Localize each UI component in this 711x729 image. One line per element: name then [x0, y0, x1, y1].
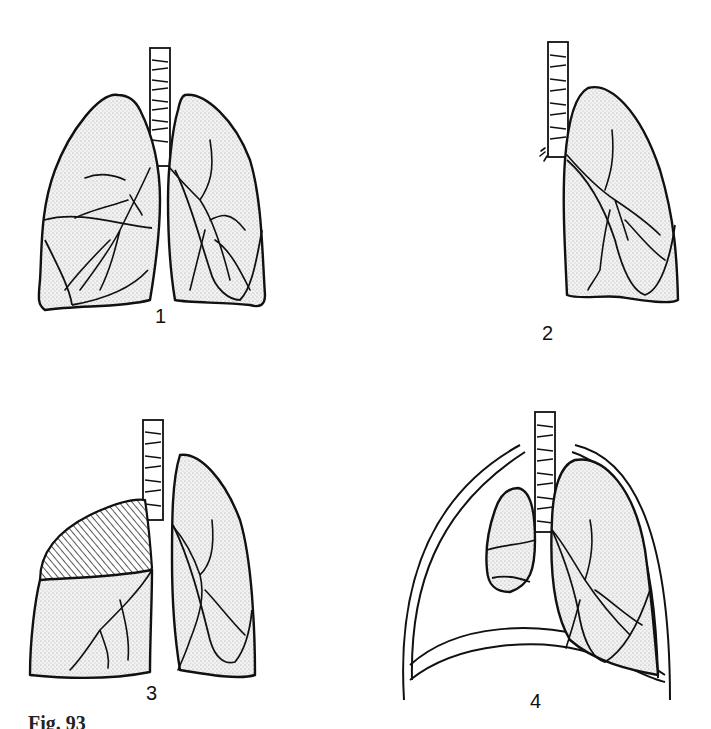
figure-caption: Fig. 93 [28, 712, 86, 729]
panel-label: 2 [542, 322, 553, 345]
lung-illustration-2 [520, 0, 711, 360]
panel-2-lateral-lung: 2 [520, 0, 711, 360]
lungs-illustration-3 [0, 400, 350, 700]
panel-label: 3 [146, 682, 157, 705]
chest-illustration-4 [380, 400, 711, 720]
panel-label: 1 [155, 305, 166, 328]
panel-1-normal-lungs: 1 [0, 0, 350, 340]
panel-3-collapsed-upper-lobe: 3 [0, 400, 350, 700]
panel-label: 4 [530, 690, 541, 713]
lungs-illustration-1 [0, 0, 350, 340]
collapsed-lobe-hatched [40, 500, 152, 580]
panel-4-collapsed-lung-chest: 4 [380, 400, 711, 720]
